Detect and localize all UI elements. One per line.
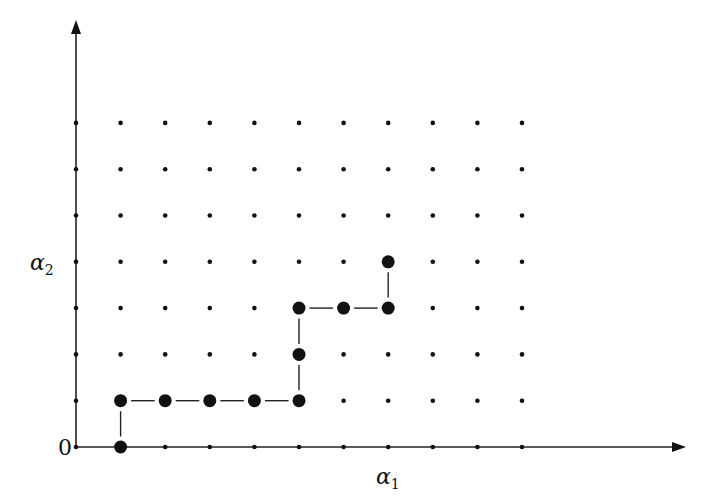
lattice-point <box>74 398 79 403</box>
lattice-point <box>297 260 302 265</box>
path-node <box>337 302 350 315</box>
lattice-point <box>341 352 346 357</box>
lattice-point <box>252 306 257 311</box>
path-node <box>248 394 261 407</box>
lattice-point <box>475 352 480 357</box>
lattice-point <box>520 445 525 450</box>
lattice-point <box>520 167 525 172</box>
lattice-point <box>74 121 79 126</box>
origin-label: 0 <box>58 435 72 460</box>
lattice-point <box>297 167 302 172</box>
x-axis-label-subscript: 1 <box>391 476 400 492</box>
path-node <box>159 394 172 407</box>
lattice-point <box>386 213 391 218</box>
path-node <box>203 394 216 407</box>
lattice-point <box>475 398 480 403</box>
lattice-point <box>386 445 391 450</box>
lattice-point <box>431 398 436 403</box>
lattice-point <box>341 213 346 218</box>
lattice-point <box>208 352 213 357</box>
lattice-point <box>74 445 79 450</box>
lattice-point <box>163 260 168 265</box>
path-node <box>293 348 306 361</box>
lattice-point <box>341 167 346 172</box>
lattice-point <box>475 121 480 126</box>
lattice-point <box>431 260 436 265</box>
lattice-point <box>208 167 213 172</box>
lattice-point <box>252 445 257 450</box>
lattice-point <box>74 260 79 265</box>
lattice-point <box>475 167 480 172</box>
lattice-point <box>475 445 480 450</box>
lattice-point <box>431 121 436 126</box>
lattice-point <box>475 306 480 311</box>
lattice-point <box>431 306 436 311</box>
lattice-point <box>341 445 346 450</box>
lattice-point <box>118 352 123 357</box>
path-node <box>293 394 306 407</box>
lattice-point <box>163 306 168 311</box>
lattice-point <box>297 445 302 450</box>
y-axis-arrowhead-icon <box>71 20 81 34</box>
lattice-point <box>163 352 168 357</box>
lattice-point <box>386 167 391 172</box>
lattice-point <box>74 352 79 357</box>
x-axis-label-symbol: α <box>376 464 391 489</box>
y-axis-label-subscript: 2 <box>45 262 54 278</box>
lattice-point <box>163 445 168 450</box>
lattice-point <box>341 260 346 265</box>
y-axis-label-symbol: α <box>30 250 45 275</box>
axis-labels: 0 α2 α1 <box>30 250 400 492</box>
lattice-point <box>520 260 525 265</box>
lattice-point <box>118 260 123 265</box>
lattice-point <box>520 213 525 218</box>
lattice-point <box>118 306 123 311</box>
x-axis-label: α1 <box>376 464 400 492</box>
path-node <box>382 255 395 268</box>
lattice-point <box>208 306 213 311</box>
lattice-point <box>252 121 257 126</box>
path-node <box>114 441 127 454</box>
lattice-point <box>163 167 168 172</box>
lattice-point <box>208 445 213 450</box>
lattice-point <box>431 213 436 218</box>
lattice-point <box>386 398 391 403</box>
lattice-point <box>431 445 436 450</box>
lattice-point <box>252 352 257 357</box>
lattice-point <box>74 213 79 218</box>
lattice-point <box>163 121 168 126</box>
lattice-point <box>74 167 79 172</box>
lattice-point <box>520 398 525 403</box>
lattice-point <box>252 260 257 265</box>
lattice-point <box>520 306 525 311</box>
lattice-point <box>386 121 391 126</box>
lattice-point <box>118 121 123 126</box>
lattice-point <box>297 121 302 126</box>
path-node <box>382 302 395 315</box>
path-node <box>293 302 306 315</box>
lattice-point <box>386 352 391 357</box>
lattice-point <box>520 352 525 357</box>
lattice-point <box>297 213 302 218</box>
x-axis-arrowhead-icon <box>672 442 686 452</box>
lattice-point <box>520 121 525 126</box>
lattice-point <box>208 121 213 126</box>
lattice-point <box>341 121 346 126</box>
lattice-point <box>163 213 168 218</box>
lattice-point <box>252 167 257 172</box>
lattice-point <box>431 167 436 172</box>
lattice-point <box>475 260 480 265</box>
path-node <box>114 394 127 407</box>
lattice-point <box>475 213 480 218</box>
y-axis-label: α2 <box>30 250 54 278</box>
axes <box>71 20 686 452</box>
lattice-point <box>431 352 436 357</box>
lattice-point <box>118 167 123 172</box>
lattice-point <box>341 398 346 403</box>
lattice-point <box>74 306 79 311</box>
lattice-path-diagram: 0 α2 α1 <box>0 0 718 503</box>
lattice-point <box>208 260 213 265</box>
lattice-point <box>208 213 213 218</box>
lattice-point <box>118 213 123 218</box>
lattice-point <box>252 213 257 218</box>
